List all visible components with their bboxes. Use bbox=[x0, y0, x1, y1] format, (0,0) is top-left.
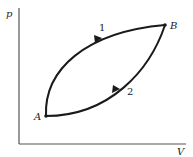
path-2-label: 2 bbox=[127, 86, 133, 97]
point-b-label: B bbox=[169, 20, 177, 31]
point-a-label: A bbox=[33, 111, 41, 122]
point-b-marker bbox=[163, 23, 167, 27]
y-axis-label: p bbox=[6, 8, 13, 19]
pv-diagram: p V A B 1 2 bbox=[0, 0, 193, 157]
point-a-marker bbox=[44, 114, 48, 118]
x-axis-label: V bbox=[177, 146, 186, 157]
path-1-curve bbox=[46, 25, 165, 116]
path-1-label: 1 bbox=[99, 22, 105, 33]
